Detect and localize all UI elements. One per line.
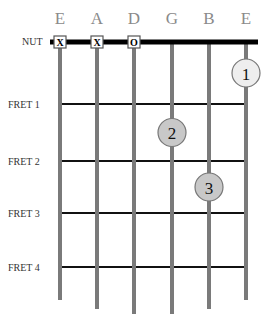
string-name: G	[166, 9, 178, 28]
svg-text:O: O	[130, 37, 138, 48]
string-names: EADGBE	[55, 9, 251, 28]
fret-label: FRET 1	[8, 99, 40, 110]
svg-text:X: X	[56, 37, 64, 48]
string-name: E	[55, 9, 65, 28]
muted-string-marker: X	[54, 36, 66, 48]
finger-dot: 2	[158, 119, 186, 147]
fret-labels: FRET 1FRET 2FRET 3FRET 4	[8, 99, 40, 273]
finger-number: 2	[168, 124, 177, 143]
fret-label: FRET 4	[8, 262, 40, 273]
muted-string-marker: X	[91, 36, 103, 48]
open-string-marker: O	[128, 36, 140, 48]
finger-dot: 3	[195, 173, 223, 201]
svg-text:X: X	[93, 37, 101, 48]
finger-number: 1	[242, 65, 251, 84]
fret-label: FRET 3	[8, 208, 40, 219]
string-name: D	[128, 9, 140, 28]
string-name: A	[91, 9, 104, 28]
nut-label: NUT	[22, 36, 43, 47]
finger-number: 3	[205, 179, 214, 198]
fret-label: FRET 2	[8, 156, 40, 167]
finger-dot: 1	[232, 59, 260, 87]
string-name: B	[203, 9, 214, 28]
chord-diagram: EADGBE NUT FRET 1FRET 2FRET 3FRET 4 XXO …	[0, 0, 270, 321]
string-name: E	[241, 9, 251, 28]
